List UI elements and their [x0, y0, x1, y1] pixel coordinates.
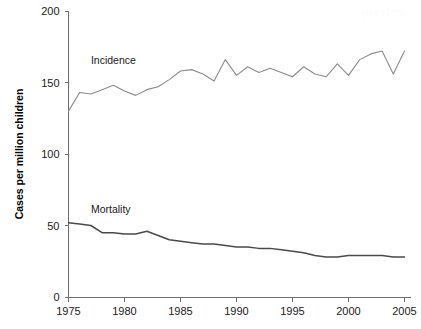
y-tick-label: 200: [41, 5, 59, 17]
x-axis-group: 1975198019851990199520002005: [56, 297, 416, 317]
series-label-incidence: Incidence: [91, 54, 136, 66]
chart-container: 050100150200 197519801985199019952000200…: [0, 0, 421, 329]
y-tick-label: 0: [53, 291, 59, 303]
series-label-mortality: Mortality: [91, 203, 131, 215]
y-axis-title: Cases per million children: [13, 89, 25, 220]
x-tick-label: 1985: [168, 305, 192, 317]
x-tick-label: 1975: [56, 305, 80, 317]
x-tick-label: 1980: [112, 305, 136, 317]
x-tick-label: 1995: [280, 305, 304, 317]
y-axis-group: 050100150200: [41, 5, 68, 303]
y-tick-label: 50: [47, 220, 59, 232]
series-line-mortality: [69, 223, 405, 257]
x-axis-tick-labels: 1975198019851990199520002005: [56, 305, 416, 317]
y-tick-label: 100: [41, 148, 59, 160]
x-tick-label: 2000: [336, 305, 360, 317]
x-tick-label: 2005: [392, 305, 416, 317]
y-axis-tick-labels: 050100150200: [41, 5, 59, 303]
y-tick-label: 150: [41, 77, 59, 89]
y-axis-ticks: [65, 11, 69, 297]
line-chart: 050100150200 197519801985199019952000200…: [0, 0, 421, 329]
x-tick-label: 1990: [224, 305, 248, 317]
watermark-text: preview: [362, 4, 407, 20]
